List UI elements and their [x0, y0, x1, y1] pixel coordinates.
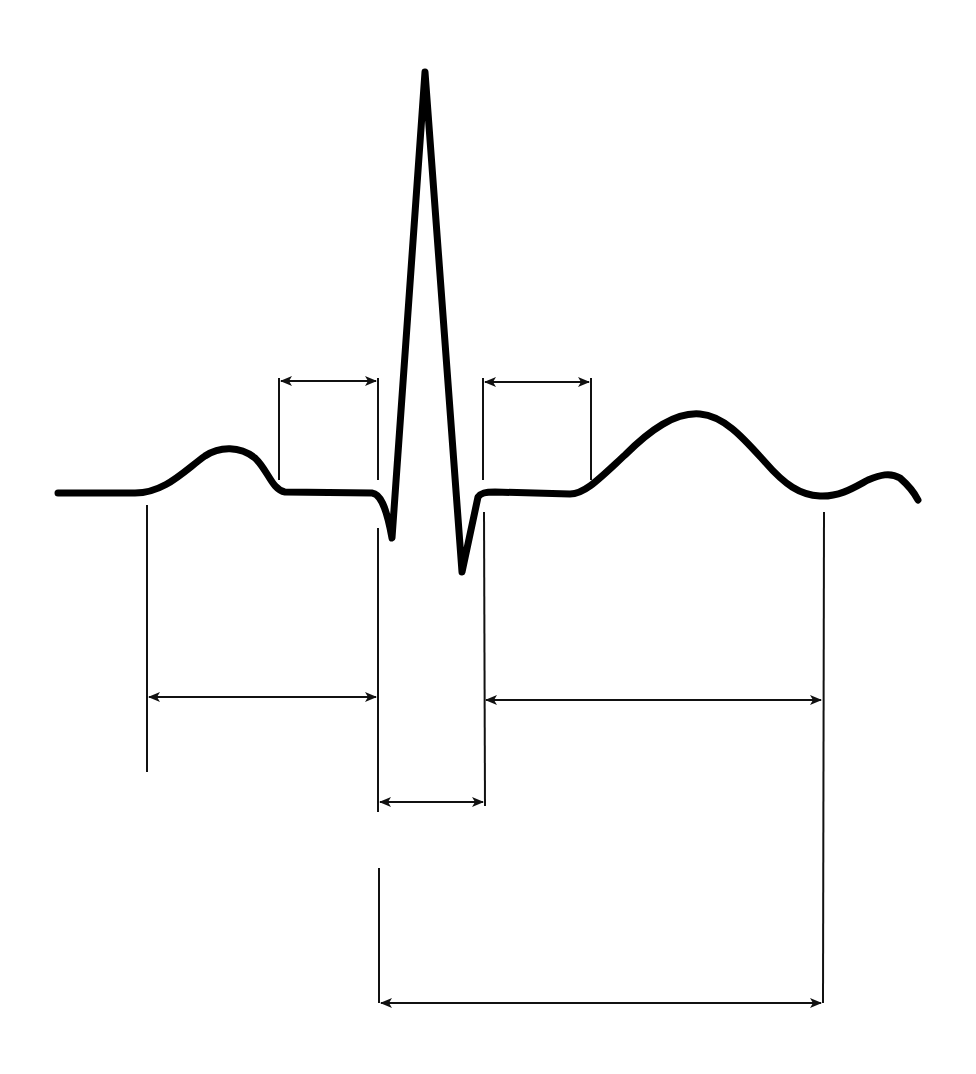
ecg-diagram [0, 0, 976, 1074]
ecg-waveform [58, 72, 918, 572]
t-wave-end-guide [823, 512, 824, 1003]
guide-lines [147, 378, 824, 1003]
qrs-end-guide [484, 512, 485, 806]
